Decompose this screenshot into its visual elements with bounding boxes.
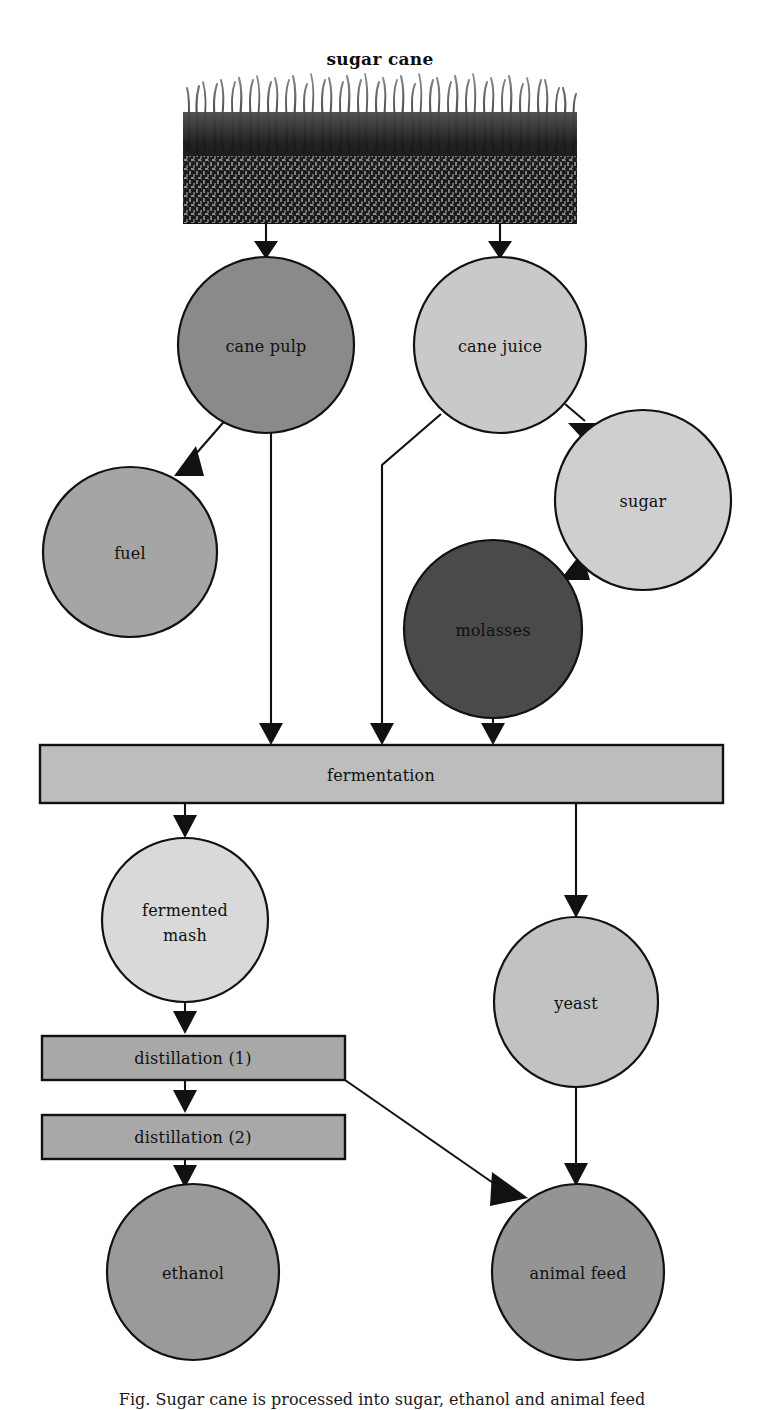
figure-caption: Fig. Sugar cane is processed into sugar,… — [119, 1390, 645, 1409]
node-distillation-1[interactable]: distillation (1) — [42, 1036, 345, 1080]
sugar-label: sugar — [620, 492, 667, 511]
node-yeast[interactable]: yeast — [494, 917, 658, 1087]
node-distillation-2[interactable]: distillation (2) — [42, 1115, 345, 1159]
node-cane-pulp[interactable]: cane pulp — [178, 257, 354, 433]
sugar-cane-field-photo — [166, 72, 594, 224]
fermented-mash-label-line1: fermented — [142, 901, 228, 920]
fermented-mash-shape[interactable] — [102, 838, 268, 1002]
distillation-2-label: distillation (2) — [134, 1128, 251, 1147]
cane-juice-label: cane juice — [458, 337, 542, 356]
edge-cane-pulp-to-fermentation — [259, 432, 283, 745]
fuel-label: fuel — [114, 544, 146, 563]
node-ethanol[interactable]: ethanol — [107, 1184, 279, 1360]
edge-molasses-to-fermentation — [481, 718, 505, 745]
diagram-page: sugar cane — [0, 0, 764, 1410]
node-sugar[interactable]: sugar — [555, 410, 731, 590]
fermentation-label: fermentation — [327, 766, 435, 785]
node-animal-feed[interactable]: animal feed — [492, 1184, 664, 1360]
node-fermented-mash[interactable]: fermented mash — [102, 838, 268, 1002]
node-molasses[interactable]: molasses — [404, 540, 582, 718]
edge-fermentation-to-fermented-mash — [173, 803, 197, 838]
ethanol-label: ethanol — [162, 1264, 224, 1283]
edge-fermentation-to-yeast — [564, 803, 588, 918]
edge-distillation-1-to-distillation-2 — [173, 1080, 197, 1113]
edge-cane-to-cane-juice — [488, 224, 512, 259]
animal-feed-label: animal feed — [529, 1264, 626, 1283]
edge-cane-to-cane-pulp — [254, 224, 278, 259]
fermented-mash-label-line2: mash — [163, 926, 207, 945]
distillation-1-label: distillation (1) — [134, 1049, 251, 1068]
edge-yeast-to-animal-feed — [564, 1087, 588, 1186]
edge-distillation-1-to-animal-feed — [345, 1080, 528, 1206]
edge-cane-pulp-to-fuel — [174, 417, 228, 476]
node-fermentation[interactable]: fermentation — [40, 745, 723, 803]
process-flow-diagram: sugar cane — [0, 0, 764, 1410]
edge-fermented-mash-to-distillation-1 — [173, 1002, 197, 1034]
node-cane-juice[interactable]: cane juice — [414, 257, 586, 433]
molasses-label: molasses — [455, 621, 530, 640]
page-title: sugar cane — [326, 49, 433, 69]
node-fuel[interactable]: fuel — [43, 467, 217, 637]
cane-pulp-label: cane pulp — [225, 337, 306, 356]
yeast-label: yeast — [553, 994, 598, 1013]
